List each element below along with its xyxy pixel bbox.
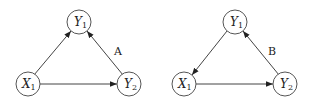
edge-x1-to-y1: [34, 31, 71, 75]
node-x1: X1: [172, 72, 196, 96]
node-x1: X1: [16, 72, 40, 96]
node-y2: Y2: [273, 72, 297, 96]
node-y2: Y2: [117, 72, 141, 96]
diagram-b: Y1 X1 Y2 B: [172, 10, 297, 96]
node-y1: Y1: [223, 10, 247, 34]
diagram-label-a: A: [113, 45, 123, 58]
node-y1: Y1: [67, 10, 91, 34]
edge-y1-to-x1: [192, 31, 227, 75]
diagram-a: Y1 X1 Y2 A: [16, 10, 141, 96]
diagram-label-b: B: [268, 45, 276, 58]
causal-diagrams: Y1 X1 Y2 A Y1 X1 Y2 B: [0, 0, 312, 102]
